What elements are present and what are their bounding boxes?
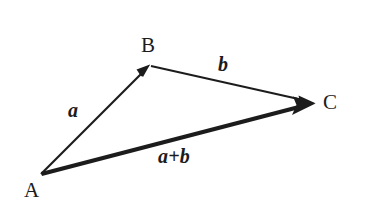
vector-diagram: A B C a b a+b bbox=[0, 0, 365, 213]
point-label-a: A bbox=[24, 180, 39, 201]
vector-a-group bbox=[41, 65, 150, 175]
vector-label-sum: a+b bbox=[158, 146, 190, 166]
vector-a-shaft bbox=[41, 71, 145, 175]
vector-diagram-canvas bbox=[0, 0, 365, 213]
vector-label-a: a bbox=[68, 100, 78, 120]
vector-label-b: b bbox=[218, 54, 228, 74]
vector-b-group bbox=[151, 66, 316, 105]
point-label-b: B bbox=[141, 35, 155, 56]
point-label-c: C bbox=[323, 92, 337, 113]
